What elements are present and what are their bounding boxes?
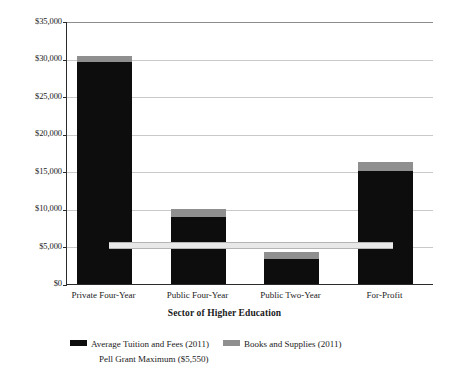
bar-segment-tuition-public-four-year[interactable] bbox=[171, 217, 226, 284]
legend-row-series: Average Tuition and Fees (2011) Books an… bbox=[70, 334, 449, 349]
y-tick-label-30000: $30,000 bbox=[0, 54, 62, 63]
y-tick-label-25000: $25,000 bbox=[0, 92, 62, 101]
x-category-label-for-profit: For-Profit bbox=[325, 290, 445, 301]
legend-row-reference: Pell Grant Maximum ($5,550) bbox=[70, 349, 449, 365]
bar-segment-books-public-four-year[interactable] bbox=[171, 209, 226, 217]
bar-segment-books-for-profit[interactable] bbox=[358, 162, 413, 171]
stacked-bar-chart: $35,000 $30,000 $25,000 $20,000 $15,000 … bbox=[0, 0, 449, 368]
bar-segment-tuition-for-profit[interactable] bbox=[358, 171, 413, 285]
tick-35000 bbox=[63, 22, 67, 23]
y-tick-label-15000: $15,000 bbox=[0, 167, 62, 176]
y-tick-label-35000: $35,000 bbox=[0, 17, 62, 26]
legend-swatch-tuition-icon bbox=[70, 340, 87, 346]
tick-0 bbox=[63, 285, 67, 286]
bar-segment-books-public-two-year[interactable] bbox=[264, 252, 319, 259]
legend-label-pell-grant: Pell Grant Maximum ($5,550) bbox=[99, 353, 209, 365]
bar-segment-tuition-private-four-year[interactable] bbox=[77, 62, 132, 284]
tick-20000 bbox=[63, 135, 67, 136]
y-tick-label-20000: $20,000 bbox=[0, 129, 62, 138]
pell-grant-reference-line bbox=[109, 242, 393, 249]
plot-area bbox=[66, 22, 433, 285]
chart-legend: Average Tuition and Fees (2011) Books an… bbox=[70, 334, 449, 365]
legend-swatch-books-icon bbox=[223, 340, 240, 346]
tick-15000 bbox=[63, 172, 67, 173]
bar-segment-books-private-four-year[interactable] bbox=[77, 56, 132, 62]
bar-segment-tuition-public-two-year[interactable] bbox=[264, 259, 319, 284]
y-tick-label-10000: $10,000 bbox=[0, 204, 62, 213]
tick-25000 bbox=[63, 97, 67, 98]
y-tick-label-0: $0 bbox=[0, 279, 62, 288]
y-tick-label-5000: $5,000 bbox=[0, 242, 62, 251]
tick-30000 bbox=[63, 60, 67, 61]
gridline-35000 bbox=[67, 22, 433, 23]
x-axis-title: Sector of Higher Education bbox=[0, 308, 449, 318]
tick-10000 bbox=[63, 210, 67, 211]
tick-5000 bbox=[63, 247, 67, 248]
